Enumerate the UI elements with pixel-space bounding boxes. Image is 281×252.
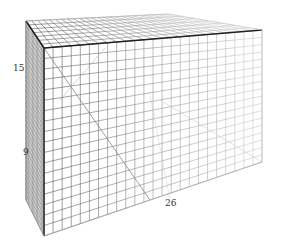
axis-label-9: 9: [23, 148, 29, 157]
background: [0, 0, 281, 252]
axis-label-15: 15: [13, 64, 24, 73]
wireframe-box-diagram: [0, 0, 281, 252]
axis-label-26: 26: [165, 199, 176, 208]
left-side-face-grid: [26, 21, 44, 236]
